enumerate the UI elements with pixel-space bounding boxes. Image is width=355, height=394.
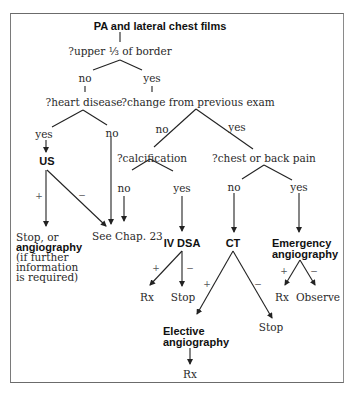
label-emergency-negative: − [310, 265, 318, 277]
node-us: US [39, 155, 54, 167]
label-ct-positive: + [203, 278, 211, 290]
label-us-negative: − [78, 189, 86, 201]
question-calcification: ?calcification [117, 152, 187, 164]
note-is-required: is required) [16, 271, 78, 283]
label-calc-yes: yes [173, 182, 191, 194]
node-dsa-rx: Rx [140, 291, 154, 303]
question-upper-third-border: ?upper ⅓ of border [68, 45, 171, 57]
node-ct-stop: Stop [259, 321, 283, 333]
label-us-positive: + [35, 190, 43, 202]
label-heart-no: no [105, 127, 118, 139]
label-emergency-positive: + [280, 265, 288, 277]
label-dsa-negative: − [186, 262, 194, 274]
question-heart-disease: ?heart disease [46, 96, 123, 108]
node-emergency-rx: Rx [275, 291, 289, 303]
node-emergency-angiography-line2: angiography [272, 248, 338, 260]
label-ct-negative: − [254, 278, 262, 290]
node-ct: CT [226, 237, 241, 249]
node-dsa-stop: Stop [171, 291, 195, 303]
label-dsa-positive: + [152, 262, 160, 274]
label-calc-no: no [117, 182, 130, 194]
label-upper-yes: yes [143, 72, 161, 84]
label-pain-yes: yes [290, 181, 308, 193]
node-emergency-observe: Observe [296, 291, 340, 303]
label-upper-no: no [78, 72, 91, 84]
node-pa-lateral-chest-films: PA and lateral chest films [94, 20, 227, 32]
label-heart-yes: yes [35, 128, 53, 140]
node-elective-rx: Rx [183, 368, 197, 380]
label-change-no: no [155, 123, 168, 135]
question-change-from-previous-exam: ?change from previous exam [121, 96, 275, 108]
node-see-chap-23: See Chap. 23 [92, 230, 163, 242]
label-pain-no: no [227, 181, 240, 193]
question-chest-or-back-pain: ?chest or back pain [212, 152, 316, 164]
label-change-yes: yes [228, 121, 246, 133]
node-elective-angiography-line2: angiography [163, 336, 229, 348]
node-iv-dsa: IV DSA [164, 237, 201, 249]
